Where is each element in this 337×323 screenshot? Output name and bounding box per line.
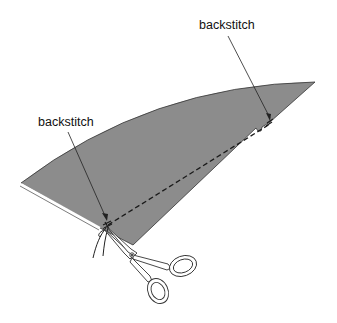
fabric-piece	[20, 82, 315, 245]
scissors-icon	[103, 226, 200, 307]
sewing-diagram	[0, 0, 337, 323]
thread-ends	[93, 228, 108, 258]
label-backstitch-top: backstitch	[199, 18, 255, 32]
label-backstitch-left: backstitch	[38, 115, 94, 129]
